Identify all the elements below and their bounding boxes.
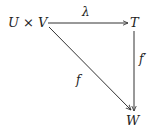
edge-label-lambda: λ bbox=[82, 6, 90, 18]
node-u-times-v: U × V bbox=[8, 16, 48, 29]
arrow-f bbox=[49, 27, 131, 110]
edge-label-f-prime: f′ bbox=[139, 53, 146, 65]
edge-label-f: f bbox=[76, 74, 80, 86]
node-t: T bbox=[130, 16, 139, 29]
node-w: W bbox=[126, 114, 139, 127]
commutative-diagram: U × V T W λ f′ f bbox=[0, 0, 156, 130]
